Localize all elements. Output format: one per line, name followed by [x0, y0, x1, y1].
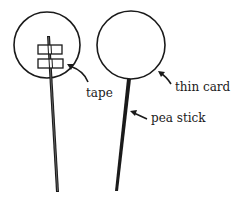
tape-arrow: [70, 66, 88, 82]
diagram-canvas: [0, 0, 240, 205]
tape-strip-top: [38, 45, 62, 54]
right-pea-stick: [115, 79, 131, 191]
tape-label: tape: [86, 87, 113, 99]
left-assembly: [14, 12, 88, 192]
pea-stick-label: pea stick: [151, 112, 206, 124]
pea-stick-arrow: [134, 113, 147, 119]
right-assembly: [97, 11, 171, 191]
thin-card-disc: [97, 11, 165, 79]
thin-card-label: thin card: [175, 81, 230, 93]
tape-strip-bottom: [38, 59, 63, 68]
